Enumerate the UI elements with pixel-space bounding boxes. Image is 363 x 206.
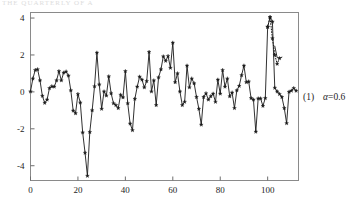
series-line-observed — [31, 17, 297, 176]
data-point-marker — [218, 92, 222, 96]
x-tick-label: 80 — [216, 185, 226, 195]
data-point-marker — [164, 59, 168, 63]
y-axis-tick-labels: -4-2024 — [17, 13, 25, 171]
data-point-marker — [199, 123, 203, 127]
x-tick-label: 20 — [73, 185, 83, 195]
data-point-marker — [86, 174, 90, 178]
y-tick-label: 0 — [20, 87, 25, 97]
data-point-marker — [142, 85, 146, 89]
data-point-marker — [214, 100, 218, 104]
data-point-marker — [223, 85, 227, 89]
data-point-marker — [237, 84, 241, 88]
y-tick-label: -4 — [17, 161, 25, 171]
data-point-marker — [131, 128, 135, 132]
caption-parameter: α=0.6 — [323, 91, 345, 103]
data-point-marker — [173, 80, 177, 84]
plot-area: 020406080100 -4-2024 — [0, 0, 310, 206]
data-point-marker — [150, 90, 154, 94]
data-series-group — [31, 17, 297, 176]
x-tick-label: 100 — [261, 185, 275, 195]
data-point-marker — [100, 107, 104, 111]
figure-root: THE QUARTERLY OF A 020406080100 -4-2024 … — [0, 0, 363, 206]
data-point-marker — [45, 98, 49, 102]
data-point-marker — [183, 100, 187, 104]
caption-parameter-value: 0.6 — [333, 92, 345, 102]
data-markers-group — [29, 15, 298, 177]
data-point-marker — [275, 62, 279, 66]
data-point-marker — [169, 66, 173, 70]
figure-caption: (1)α=0.6 — [303, 91, 363, 103]
time-series-chart: 020406080100 -4-2024 — [0, 0, 310, 206]
data-point-marker — [154, 103, 158, 107]
y-tick-label: -2 — [17, 124, 25, 134]
y-tick-label: 4 — [20, 13, 25, 23]
y-tick-label: 2 — [20, 50, 25, 60]
data-point-marker — [233, 106, 237, 110]
x-tick-label: 60 — [168, 185, 178, 195]
x-tick-label: 0 — [28, 185, 33, 195]
x-axis-ticks — [31, 177, 268, 181]
data-point-marker — [285, 121, 289, 125]
data-point-marker — [188, 85, 192, 89]
data-point-marker — [254, 130, 258, 134]
x-tick-label: 40 — [121, 185, 131, 195]
x-axis-tick-labels: 020406080100 — [28, 185, 275, 195]
data-point-marker — [261, 104, 265, 108]
data-point-marker — [59, 78, 63, 82]
data-point-marker — [273, 86, 277, 90]
caption-index: (1) — [303, 91, 314, 103]
